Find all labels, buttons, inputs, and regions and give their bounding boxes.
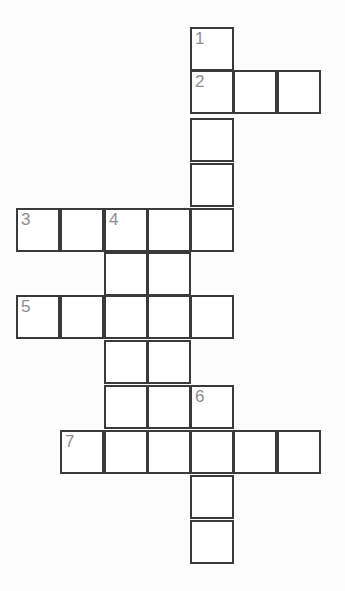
cell-c1-r6[interactable]: [60, 295, 104, 339]
cell-c3-r7[interactable]: [147, 340, 191, 384]
cell-c3-r6[interactable]: [147, 295, 191, 339]
cell-c0-r4[interactable]: 3: [16, 208, 60, 252]
cell-c3-r8[interactable]: [147, 385, 191, 429]
cell-c6-r1[interactable]: [277, 70, 321, 114]
cell-c4-r1[interactable]: 2: [190, 70, 234, 114]
cell-c0-r6[interactable]: 5: [16, 295, 60, 339]
cell-c4-r10[interactable]: [190, 475, 234, 519]
cell-c4-r0[interactable]: 1: [190, 27, 234, 71]
cell-c4-r2[interactable]: [190, 118, 234, 162]
cell-c6-r9[interactable]: [277, 430, 321, 474]
cell-c4-r9[interactable]: [190, 430, 234, 474]
cell-number-1: 1: [195, 29, 204, 49]
cell-c3-r5[interactable]: [147, 252, 191, 296]
cell-number-6: 6: [195, 387, 204, 407]
cell-c2-r9[interactable]: [104, 430, 148, 474]
cell-c2-r6[interactable]: [104, 295, 148, 339]
cell-c3-r9[interactable]: [147, 430, 191, 474]
cell-c5-r1[interactable]: [233, 70, 277, 114]
cell-c2-r8[interactable]: [104, 385, 148, 429]
crossword-grid: 1234567: [0, 0, 345, 591]
cell-c4-r4[interactable]: [190, 208, 234, 252]
cell-c2-r7[interactable]: [104, 340, 148, 384]
cell-number-2: 2: [195, 72, 204, 92]
cell-c1-r9[interactable]: 7: [60, 430, 104, 474]
cell-c1-r4[interactable]: [60, 208, 104, 252]
cell-c4-r3[interactable]: [190, 163, 234, 207]
cell-c4-r8[interactable]: 6: [190, 385, 234, 429]
cell-c3-r4[interactable]: [147, 208, 191, 252]
cell-number-5: 5: [21, 297, 30, 317]
cell-c2-r4[interactable]: 4: [104, 208, 148, 252]
cell-c2-r5[interactable]: [104, 252, 148, 296]
cell-number-4: 4: [109, 210, 118, 230]
cell-c4-r6[interactable]: [190, 295, 234, 339]
cell-number-3: 3: [21, 210, 30, 230]
cell-c5-r9[interactable]: [233, 430, 277, 474]
cell-number-7: 7: [65, 432, 74, 452]
cell-c4-r11[interactable]: [190, 520, 234, 564]
